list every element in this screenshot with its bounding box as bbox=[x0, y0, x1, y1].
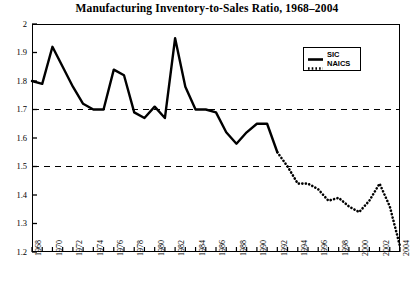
x-axis-tick-label: 2002 bbox=[383, 240, 391, 256]
legend-item-sic: SIC bbox=[307, 50, 340, 59]
y-axis-tick-label: 1.5 bbox=[1, 162, 27, 170]
y-axis-tick-label: 1.8 bbox=[1, 77, 27, 85]
x-axis-tick-label: 1992 bbox=[281, 240, 289, 256]
x-axis-tick-label: 1982 bbox=[178, 240, 186, 256]
x-axis-tick-label: 1988 bbox=[240, 240, 248, 256]
y-axis-tick-label: 1.6 bbox=[1, 134, 27, 142]
x-axis-tick-label: 1978 bbox=[137, 240, 145, 256]
chart-legend: SIC NAICS bbox=[303, 47, 361, 71]
series-line-naics bbox=[277, 152, 400, 246]
x-axis-tick-label: 1974 bbox=[97, 240, 105, 256]
x-axis-tick-label: 1970 bbox=[56, 240, 64, 256]
x-axis-tick-label: 1996 bbox=[321, 240, 329, 256]
y-axis-tick-label: 1.7 bbox=[1, 105, 27, 113]
legend-key-dotted-line bbox=[307, 59, 324, 68]
x-axis-tick-label: 1984 bbox=[199, 240, 207, 256]
x-axis-tick-label: 1972 bbox=[76, 240, 84, 256]
x-axis-tick-label: 1986 bbox=[219, 240, 227, 256]
x-axis-tick-label: 1990 bbox=[260, 240, 268, 256]
series-line-sic bbox=[32, 38, 277, 152]
chart-figure: Manufacturing Inventory-to-Sales Ratio, … bbox=[0, 0, 414, 283]
x-axis-tick-label: 1968 bbox=[35, 240, 43, 256]
legend-label-sic: SIC bbox=[327, 51, 340, 59]
reference-lines bbox=[33, 110, 399, 167]
x-axis-tick-label: 2000 bbox=[362, 240, 370, 256]
y-axis-tick-label: 1.3 bbox=[1, 219, 27, 227]
y-axis-tick-label: 1.4 bbox=[1, 191, 27, 199]
y-axis-ticks bbox=[32, 24, 37, 252]
y-axis-tick-label: 1.2 bbox=[1, 248, 27, 256]
x-axis-tick-label: 1994 bbox=[301, 240, 309, 256]
legend-label-naics: NAICS bbox=[327, 60, 350, 68]
x-axis-tick-label: 1998 bbox=[342, 240, 350, 256]
x-axis-tick-label: 2004 bbox=[403, 240, 411, 256]
y-axis-tick-label: 2 bbox=[1, 20, 27, 28]
legend-key-solid-line bbox=[307, 50, 324, 59]
y-axis-tick-label: 1.9 bbox=[1, 48, 27, 56]
x-axis-tick-label: 1976 bbox=[117, 240, 125, 256]
x-axis-tick-label: 1980 bbox=[158, 240, 166, 256]
legend-item-naics: NAICS bbox=[307, 59, 350, 68]
